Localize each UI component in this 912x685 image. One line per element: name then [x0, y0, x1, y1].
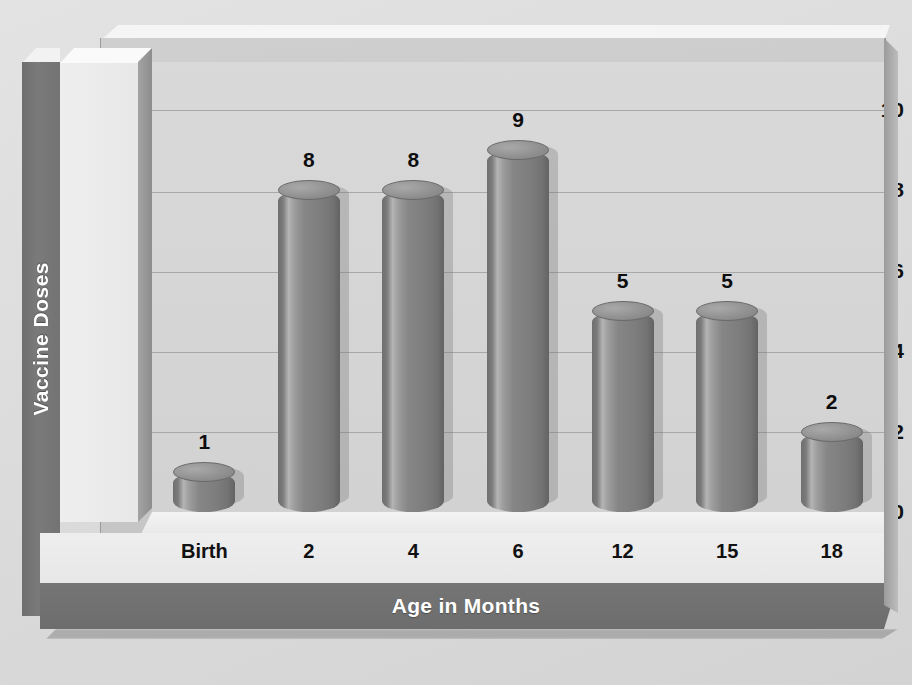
- x-tick-label: Birth: [181, 540, 228, 563]
- chart-shell-right-face: [884, 38, 898, 613]
- bar-body: [801, 432, 863, 512]
- y-axis-title-band: Vaccine Doses: [22, 62, 60, 616]
- bar-top-cap: [801, 422, 863, 442]
- bar-cylinder: [173, 472, 235, 512]
- y-axis-title: Vaccine Doses: [29, 262, 53, 416]
- x-axis-label-plate: [40, 533, 898, 583]
- bar-body: [278, 190, 340, 512]
- x-tick-label: 18: [821, 540, 843, 563]
- y-axis-title-band-top-face: [22, 48, 60, 63]
- bar-cylinder: [696, 311, 758, 512]
- x-axis-title: Age in Months: [392, 594, 541, 618]
- chart-root: 1889552 0246810 Vaccine Doses Birth24612…: [0, 0, 912, 685]
- x-tick-label: 6: [512, 540, 523, 563]
- bar-top-cap: [278, 180, 340, 200]
- bar-cylinder: [487, 150, 549, 512]
- bar-top-cap: [173, 462, 235, 482]
- x-tick-label: 12: [611, 540, 633, 563]
- bar-value-label: 8: [303, 148, 315, 172]
- x-tick-label: 15: [716, 540, 738, 563]
- x-tick-label: 2: [303, 540, 314, 563]
- bar-value-label: 1: [198, 430, 210, 454]
- bar-value-label: 5: [721, 269, 733, 293]
- y-axis-plate-top-face: [60, 48, 152, 63]
- bar-body: [592, 311, 654, 512]
- bar-value-label: 8: [408, 148, 420, 172]
- x-tick-label: 4: [408, 540, 419, 563]
- bar-body: [696, 311, 758, 512]
- bar-body: [382, 190, 444, 512]
- bar-cylinder: [592, 311, 654, 512]
- x-axis-title-band-shadow: [46, 629, 898, 639]
- bar-top-cap: [592, 301, 654, 321]
- bar-top-cap: [382, 180, 444, 200]
- bar-cylinder: [278, 190, 340, 512]
- bar-cylinder: [382, 190, 444, 512]
- bar-body: [487, 150, 549, 512]
- y-axis-plate-side-face: [138, 48, 152, 522]
- bar-value-label: 9: [512, 108, 524, 132]
- bar-value-label: 5: [617, 269, 629, 293]
- x-axis-title-band: Age in Months: [40, 583, 898, 629]
- y-axis-plate: [60, 62, 138, 522]
- bar-value-label: 2: [826, 390, 838, 414]
- bar-top-cap: [487, 140, 549, 160]
- bar-top-cap: [696, 301, 758, 321]
- bar-cylinder: [801, 432, 863, 512]
